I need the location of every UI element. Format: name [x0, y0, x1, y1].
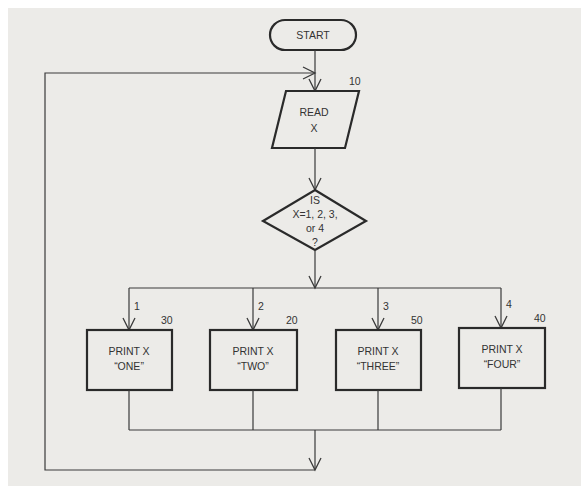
branch-1-line1: PRINT X	[108, 345, 149, 357]
branch-3-line2: “THREE”	[357, 360, 400, 372]
branch-1-label: 1	[134, 300, 140, 312]
decision-node: IS X=1, 2, 3, or 4 ?	[263, 190, 366, 250]
branch-3-step-number: 50	[411, 314, 423, 326]
read-label-line2: X	[310, 122, 317, 134]
branch-3-label: 3	[383, 300, 389, 312]
branch-4-step-number: 40	[534, 312, 546, 324]
branch-2-label: 2	[258, 300, 264, 312]
branch-2-step-number: 20	[286, 314, 298, 326]
decision-line4: ?	[312, 236, 318, 248]
decision-line1: IS	[310, 194, 320, 206]
decision-line3: or 4	[306, 222, 324, 234]
branch-1-line2: “ONE”	[114, 360, 144, 372]
branch-2-line2: “TWO”	[237, 360, 269, 372]
branch-4-line1: PRINT X	[481, 343, 522, 355]
branch-2-line1: PRINT X	[232, 345, 273, 357]
decision-line2: X=1, 2, 3,	[292, 208, 337, 220]
branch-4: 4 40 PRINT X “FOUR”	[459, 288, 546, 430]
read-node: 10 READ X	[272, 75, 361, 148]
branch-3-line1: PRINT X	[357, 345, 398, 357]
branch-4-line2: “FOUR”	[484, 358, 521, 370]
read-step-number: 10	[349, 75, 361, 87]
branch-2: 2 20 PRINT X “TWO”	[210, 288, 298, 430]
branch-4-label: 4	[506, 298, 512, 310]
branch-3: 3 50 PRINT X “THREE”	[336, 288, 423, 430]
branch-1: 1 30 PRINT X “ONE”	[87, 288, 173, 430]
read-label-line1: READ	[299, 106, 329, 118]
start-node: START	[270, 20, 356, 50]
flowchart: START 10 READ X IS X=1, 2, 3, or 4 ? 1 3…	[0, 0, 587, 493]
start-label: START	[296, 29, 330, 41]
branch-1-step-number: 30	[161, 314, 173, 326]
read-io-shape	[272, 91, 359, 148]
loop-back-connector	[45, 73, 315, 470]
